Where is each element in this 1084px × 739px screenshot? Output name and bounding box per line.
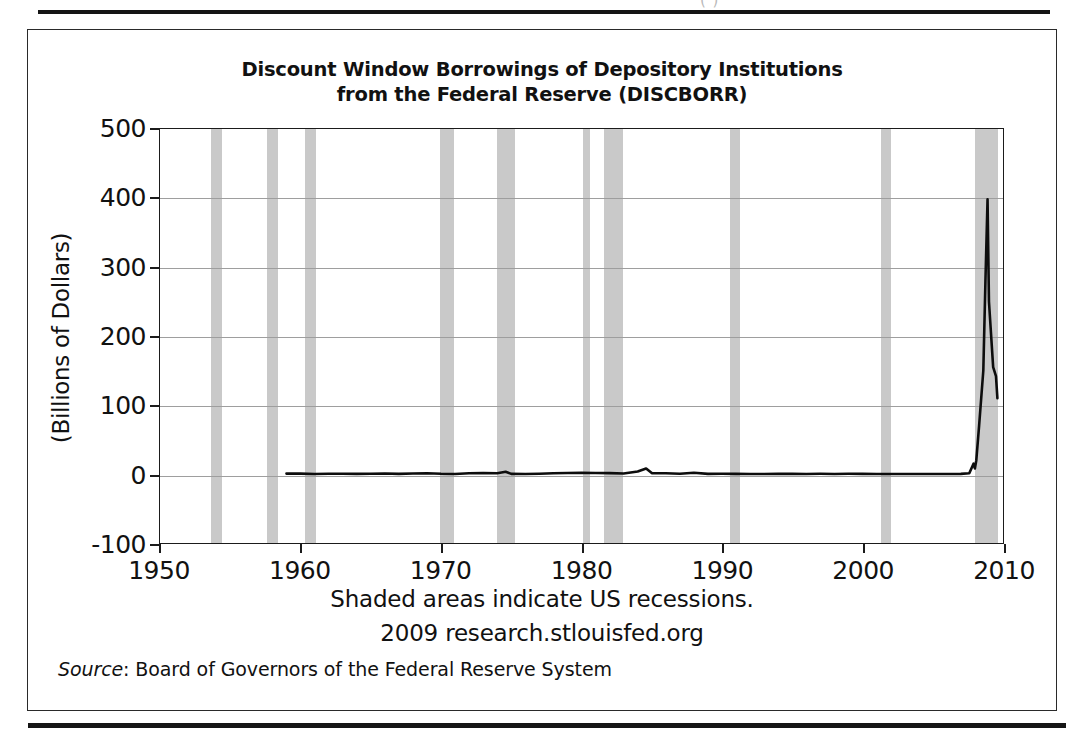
footnote-source-site: 2009 research.stlouisfed.org (28, 620, 1056, 646)
y-axis-tick-label: -100 (91, 530, 146, 559)
x-axis-tick-label: 1990 (692, 556, 754, 585)
x-axis-tick-label: 1960 (269, 556, 331, 585)
chart-title-line-2: from the Federal Reserve (DISCBORR) (28, 82, 1056, 107)
chart-title: Discount Window Borrowings of Depository… (28, 57, 1056, 107)
x-axis-tick-mark (1004, 544, 1006, 553)
x-axis-tick-label: 1980 (551, 556, 613, 585)
x-axis-tick-label: 1970 (410, 556, 472, 585)
y-axis-tick-mark (150, 544, 159, 546)
plot-frame (159, 128, 1004, 544)
y-axis-tick-mark (150, 336, 159, 338)
source-text: Board of Governors of the Federal Reserv… (135, 658, 612, 680)
scanned-page: ( ) Discount Window Borrowings of Deposi… (0, 0, 1084, 739)
y-axis-tick-label: 300 (100, 252, 146, 281)
source-label: Source (58, 658, 123, 680)
source-separator: : (123, 658, 135, 680)
y-axis-tick-mark (150, 475, 159, 477)
y-axis-tick-label: 0 (131, 460, 146, 489)
y-axis-tick-label: 500 (100, 114, 146, 143)
figure-box: Discount Window Borrowings of Depository… (27, 29, 1057, 711)
y-axis-tick-mark (150, 405, 159, 407)
y-axis-tick-mark (150, 197, 159, 199)
x-axis-tick-mark (582, 544, 584, 553)
page-top-cutoff-text: ( ) (700, 0, 719, 9)
data-series-discborr (160, 129, 1003, 543)
x-axis-tick-mark (722, 544, 724, 553)
x-axis-tick-mark (159, 544, 161, 553)
footnote-recessions: Shaded areas indicate US recessions. (28, 586, 1056, 612)
chart-title-line-1: Discount Window Borrowings of Depository… (241, 58, 842, 81)
x-axis-tick-label: 2010 (973, 556, 1035, 585)
y-axis-tick-label: 200 (100, 322, 146, 351)
x-axis-tick-mark (863, 544, 865, 553)
plot-area: -1000100200300400500 1950196019701980199… (159, 128, 1004, 544)
page-rule-top (38, 10, 1050, 14)
x-axis-tick-label: 2000 (832, 556, 894, 585)
source-line: Source: Board of Governors of the Federa… (58, 658, 612, 680)
y-axis-tick-label: 400 (100, 183, 146, 212)
y-axis-tick-label: 100 (100, 391, 146, 420)
x-axis-tick-mark (441, 544, 443, 553)
page-rule-bottom (28, 723, 1066, 728)
x-axis-tick-mark (300, 544, 302, 553)
x-axis-tick-label: 1950 (128, 556, 190, 585)
y-axis-tick-mark (150, 267, 159, 269)
y-axis-tick-mark (150, 128, 159, 130)
y-axis-caption: (Billions of Dollars) (48, 178, 74, 498)
